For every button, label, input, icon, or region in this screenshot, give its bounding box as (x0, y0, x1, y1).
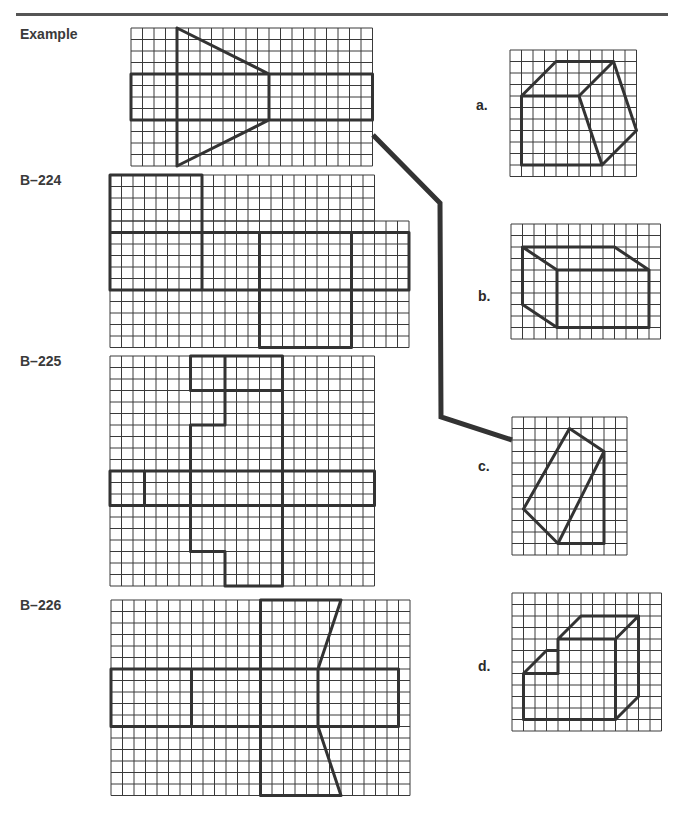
grid-example-0 (131, 28, 373, 166)
grid-option-b (511, 224, 661, 339)
net-shape-b226 (111, 600, 399, 796)
grid-option-c (512, 417, 627, 555)
answer-connector-line (373, 135, 512, 440)
solid-shape-option-b (523, 247, 650, 328)
connector-polyline (373, 135, 512, 440)
grid-b224-0 (110, 175, 375, 221)
figure-canvas (0, 0, 681, 816)
